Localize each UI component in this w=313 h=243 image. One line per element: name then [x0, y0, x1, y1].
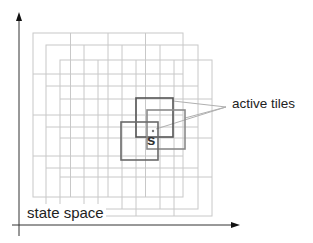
state-space-label: state space — [25, 204, 106, 221]
leader-line — [173, 101, 226, 107]
active-tiles-label: active tiles — [232, 96, 295, 111]
x-axis-arrow-icon — [231, 222, 240, 228]
tiling-3 — [60, 60, 212, 216]
state-point-label: s — [147, 131, 155, 148]
tiling-2 — [46, 45, 198, 209]
active-tiles-group — [121, 98, 185, 160]
y-axis-arrow-icon — [16, 12, 22, 21]
